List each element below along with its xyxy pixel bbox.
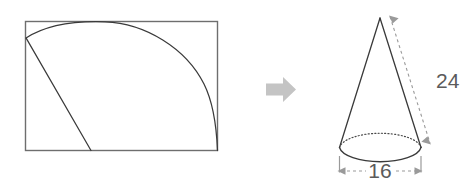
arrow-right-icon [266,77,296,102]
cone-base-hidden-arc [340,133,422,147]
cone-left-slant [340,18,381,148]
base-diameter-dimension: 16 [338,156,423,182]
cone-group: 24 16 [338,16,460,183]
transform-arrow [266,77,296,102]
geometry-diagram: 24 16 [0,0,461,188]
slant-height-label: 24 [436,69,460,92]
slant-dimension-arrowhead-top [389,16,399,24]
sector-in-rectangle-group [26,22,218,151]
base-dimension-arrowhead-left [338,167,346,175]
diagram-canvas: 24 16 [0,0,461,188]
slant-dimension-line [390,17,430,144]
slant-dimension-arrowhead-bottom [421,136,431,144]
sector-arc [26,22,218,151]
cone-right-slant [380,18,421,148]
sector-radius-line [26,38,91,150]
base-diameter-label: 16 [368,159,391,182]
